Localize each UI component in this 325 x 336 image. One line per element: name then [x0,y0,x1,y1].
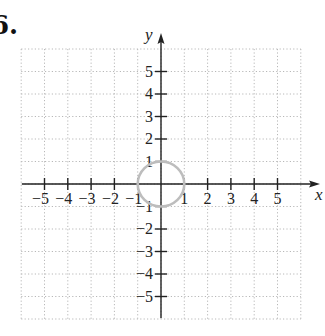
y-tick-label: −2 [136,220,153,237]
y-tick-label: 2 [145,130,153,147]
x-tick-label: −2 [102,190,119,207]
x-tick-label: −3 [79,190,96,207]
coordinate-plane: −5−4−3−2−11234554321−1−2−3−4−5 x y [0,0,325,336]
y-tick-label: 5 [145,63,153,80]
y-tick-label: −3 [136,243,153,260]
x-tick-label: 3 [227,190,235,207]
y-tick-label: 4 [145,85,153,102]
y-tick-label: 3 [145,108,153,125]
x-tick-label: −4 [55,190,72,207]
axes [22,33,320,318]
y-tick-label: −5 [136,288,153,305]
x-tick-label: 2 [204,190,212,207]
x-axis-label: x [314,185,323,204]
y-axis-label: y [143,25,153,44]
x-tick-label: 5 [274,190,282,207]
x-tick-label: −5 [32,190,49,207]
y-tick-label: −4 [136,265,153,282]
x-tick-label: 4 [250,190,258,207]
